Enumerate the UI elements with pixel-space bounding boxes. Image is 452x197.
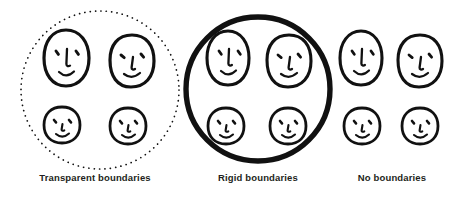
child-face-right-icon xyxy=(110,108,146,144)
rigid-boundary-solid-circle xyxy=(186,17,330,161)
diagram-canvas xyxy=(0,0,452,197)
group-no-boundaries xyxy=(340,31,442,144)
caption-rigid-boundaries: Rigid boundaries xyxy=(183,172,333,183)
boundaries-diagram: Transparent boundaries Rigid boundaries … xyxy=(0,0,452,197)
adult-face-right-icon xyxy=(267,35,311,87)
child-face-right-icon xyxy=(402,108,438,144)
adult-face-left-icon xyxy=(340,31,382,85)
child-face-right-icon xyxy=(270,108,306,144)
adult-face-right-icon xyxy=(398,35,442,87)
caption-no-boundaries: No boundaries xyxy=(332,172,452,183)
group-rigid-boundaries xyxy=(186,17,330,161)
adult-face-left-icon xyxy=(44,30,89,86)
caption-transparent-boundaries: Transparent boundaries xyxy=(0,172,190,183)
child-face-left-icon xyxy=(44,107,80,143)
child-face-left-icon xyxy=(344,108,380,144)
transparent-boundary-dotted-circle xyxy=(21,11,179,169)
adult-face-left-icon xyxy=(207,31,249,85)
child-face-left-icon xyxy=(208,108,244,144)
adult-face-right-icon xyxy=(110,35,154,87)
group-transparent-boundaries xyxy=(21,11,179,169)
